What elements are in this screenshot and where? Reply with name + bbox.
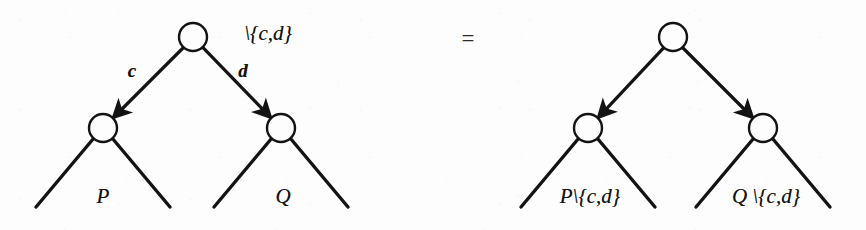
- node-left-child-left-tree[interactable]: [89, 114, 117, 142]
- tree-rewriting-figure: \{c,d} c d P Q = P\{c,d} Q \{c,d}: [0, 0, 866, 230]
- left-tree: [36, 23, 348, 207]
- subtree-Q-left-edge: [214, 139, 272, 208]
- subtree-label-P-restricted: P\{c,d}: [560, 186, 621, 207]
- node-root-left-tree[interactable]: [179, 23, 207, 51]
- arrow-edge-d: [203, 47, 272, 118]
- subtree-Q-right-edge: [291, 139, 349, 208]
- arrow-edge-c: [113, 48, 184, 119]
- right-tree: [521, 23, 830, 207]
- equals-sign: =: [462, 27, 475, 50]
- node-left-child-right-tree[interactable]: [574, 114, 602, 142]
- root-restriction-annotation: \{c,d}: [244, 23, 292, 44]
- subtree-label-Q: Q: [275, 186, 290, 207]
- arrow-edge-right: [683, 48, 754, 119]
- node-right-child-right-tree[interactable]: [749, 114, 777, 142]
- node-root-right-tree[interactable]: [659, 23, 687, 51]
- subtree-P-right-edge: [113, 139, 171, 208]
- subtree-label-P: P: [97, 186, 110, 207]
- subtree-label-Q-restricted: Q \{c,d}: [732, 186, 800, 207]
- arrow-edge-left: [598, 48, 664, 119]
- edge-label-c: c: [128, 61, 136, 80]
- node-right-child-left-tree[interactable]: [267, 114, 295, 142]
- subtree-P-left-edge: [36, 139, 94, 208]
- edge-label-d: d: [238, 61, 248, 80]
